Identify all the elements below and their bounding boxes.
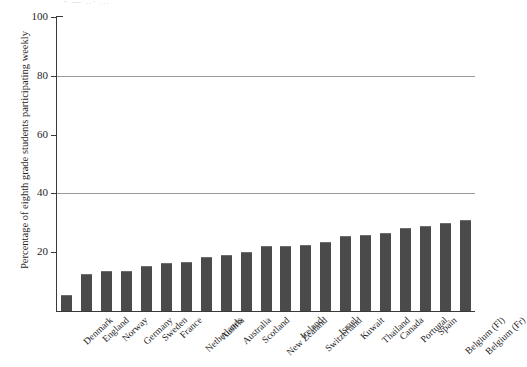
bar [280,246,291,311]
x-axis-line [56,311,475,312]
bar [380,233,391,311]
bar-top-edge [280,246,291,247]
bar-top-edge [360,235,371,236]
y-axis-tick-label-wrap: 20 [0,246,48,257]
y-axis-tick-label: 60 [4,129,48,140]
bar-top-edge [400,228,411,229]
bar [181,262,192,311]
bar-top-edge [161,263,172,264]
y-axis-tick-label-wrap: 100 [0,11,48,22]
bar [340,236,351,311]
bar-top-edge [420,226,431,227]
bar [300,245,311,311]
y-axis-line [56,16,57,312]
bar [241,252,252,311]
bar [161,263,172,311]
bar-top-edge [181,262,192,263]
gridline [57,193,475,194]
bar-top-edge [380,233,391,234]
bar-top-edge [261,246,272,247]
bar-top-edge [141,266,152,267]
bar-top-edge [340,236,351,237]
y-axis-tick-label-wrap: 60 [0,129,48,140]
bar-top-edge [101,271,112,272]
bar [261,246,272,311]
bar [221,255,232,311]
bar-top-edge [241,252,252,253]
y-axis-tick-mark [51,135,57,136]
y-axis-tick-label: 40 [4,187,48,198]
y-axis-tick-label-wrap: 40 [0,187,48,198]
y-axis-tick-mark [51,17,57,18]
bar-top-edge [201,257,212,258]
bar [420,226,431,311]
bar-top-edge [460,220,471,221]
y-axis-tick-mark [51,76,57,77]
bar [360,235,371,311]
y-axis-tick-mark [51,193,57,194]
y-axis-tick-mark [51,252,57,253]
bar [440,223,451,311]
top-cropped-text-artifact: - — ..· ... [64,0,264,5]
bar [101,271,112,311]
bar-top-edge [61,295,72,296]
bar [81,274,92,311]
y-axis-tick-label: 20 [4,246,48,257]
bar-top-edge [440,223,451,224]
bar-top-edge [221,255,232,256]
bar [141,266,152,311]
gridline [57,76,475,77]
bar-top-edge [300,245,311,246]
bar-top-edge [81,274,92,275]
bar [320,242,331,311]
y-axis-tick-label: 100 [4,11,48,22]
bar [400,228,411,311]
bar [121,271,132,311]
y-axis-tick-label: 80 [4,70,48,81]
bar [61,295,72,311]
y-axis-tick-label-wrap: 80 [0,70,48,81]
bar-top-edge [320,242,331,243]
bar [460,220,471,311]
bar-top-edge [121,271,132,272]
y-axis-top-cap [57,16,63,17]
bar [201,257,212,311]
